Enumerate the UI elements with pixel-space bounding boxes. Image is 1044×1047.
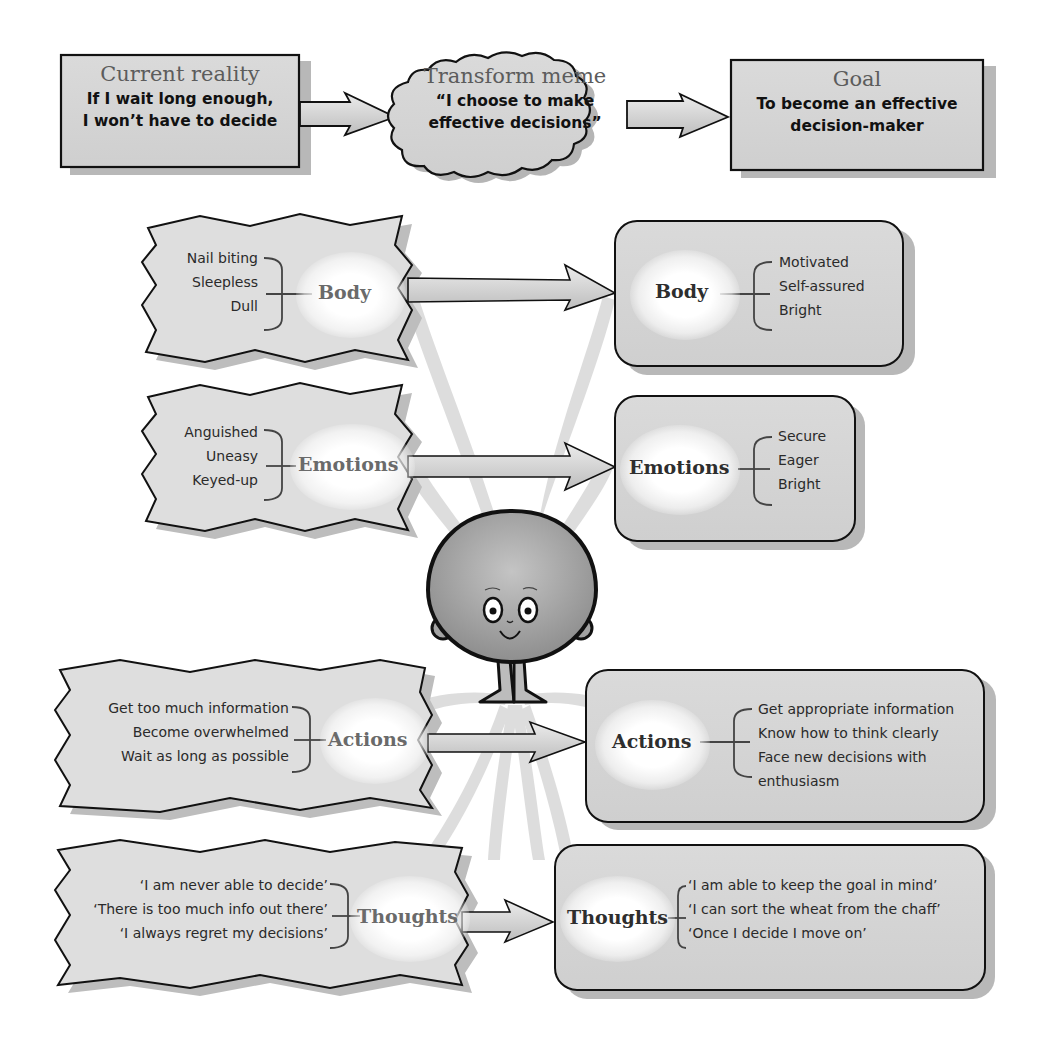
character-figure: [428, 511, 596, 702]
body-current-label: Body: [318, 281, 371, 303]
current-reality-heading: Current reality: [61, 62, 299, 86]
list-item: Self-assured: [779, 274, 865, 298]
transform-meme-heading: Transform meme: [400, 64, 630, 88]
list-item: ‘There is too much info out there’: [93, 897, 328, 921]
list-item: Secure: [778, 424, 826, 448]
list-item: Wait as long as possible: [108, 744, 289, 768]
emotions-current-list: Anguished Uneasy Keyed-up: [184, 420, 258, 492]
transform-meme-text-line1: “I choose to make: [400, 90, 630, 112]
body-current-list: Nail biting Sleepless Dull: [187, 246, 258, 318]
list-item: Nail biting: [187, 246, 258, 270]
list-item: Sleepless: [187, 270, 258, 294]
emotions-current-label: Emotions: [298, 453, 398, 475]
list-item: Face new decisions with: [758, 745, 954, 769]
list-item: Uneasy: [184, 444, 258, 468]
list-item: ‘I am able to keep the goal in mind’: [688, 873, 941, 897]
transform-meme-text-line2: effective decisions”: [400, 112, 630, 134]
emotions-desired-label: Emotions: [629, 456, 729, 478]
goal-heading: Goal: [731, 67, 983, 91]
list-item: enthusiasm: [758, 769, 954, 793]
list-item: Bright: [778, 472, 826, 496]
list-item: Eager: [778, 448, 826, 472]
transform-meme-panel: Transform meme “I choose to make effecti…: [400, 64, 630, 134]
goal-text-line1: To become an effective: [731, 93, 983, 115]
emotions-desired-list: Secure Eager Bright: [778, 424, 826, 496]
body-desired-label: Body: [655, 280, 708, 302]
actions-desired-list: Get appropriate information Know how to …: [758, 697, 954, 793]
list-item: ‘I always regret my decisions’: [93, 921, 328, 945]
actions-current-label: Actions: [328, 728, 408, 750]
list-item: Bright: [779, 298, 865, 322]
goal-text-line2: decision-maker: [731, 115, 983, 137]
thoughts-desired-list: ‘I am able to keep the goal in mind’ ‘I …: [688, 873, 941, 945]
list-item: Keyed-up: [184, 468, 258, 492]
current-reality-panel: Current reality If I wait long enough, I…: [61, 62, 299, 132]
actions-current-list: Get too much information Become overwhel…: [108, 696, 289, 768]
current-reality-text-line2: I won’t have to decide: [61, 110, 299, 132]
thoughts-current-list: ‘I am never able to decide’ ‘There is to…: [93, 873, 328, 945]
list-item: Know how to think clearly: [758, 721, 954, 745]
thoughts-current-label: Thoughts: [357, 905, 458, 927]
list-item: Become overwhelmed: [108, 720, 289, 744]
list-item: Anguished: [184, 420, 258, 444]
list-item: Get too much information: [108, 696, 289, 720]
thoughts-desired-label: Thoughts: [567, 906, 668, 928]
current-reality-text-line1: If I wait long enough,: [61, 88, 299, 110]
list-item: Get appropriate information: [758, 697, 954, 721]
goal-panel: Goal To become an effective decision-mak…: [731, 67, 983, 137]
list-item: ‘Once I decide I move on’: [688, 921, 941, 945]
list-item: ‘I can sort the wheat from the chaff’: [688, 897, 941, 921]
actions-desired-label: Actions: [612, 730, 692, 752]
list-item: Dull: [187, 294, 258, 318]
list-item: ‘I am never able to decide’: [93, 873, 328, 897]
list-item: Motivated: [779, 250, 865, 274]
body-desired-list: Motivated Self-assured Bright: [779, 250, 865, 322]
